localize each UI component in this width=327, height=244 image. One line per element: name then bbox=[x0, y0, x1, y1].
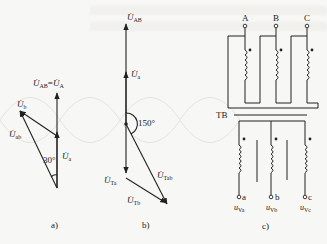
label-UTa: U̇Ta bbox=[104, 175, 117, 186]
angle-label-150: 150° bbox=[138, 118, 156, 128]
coil-A bbox=[245, 50, 247, 80]
terminal-label-c: c bbox=[308, 192, 312, 202]
terminal-label-b: b bbox=[275, 192, 280, 202]
terminal-label-A: A bbox=[242, 13, 249, 23]
coil-a bbox=[239, 145, 241, 173]
label-UAB-eq-UA: U̇AB=U̇A bbox=[33, 78, 64, 89]
background-watermark bbox=[0, 98, 240, 143]
label-Ua-b: U̇a bbox=[131, 69, 141, 80]
coil-b bbox=[271, 145, 273, 173]
label-Ub: U̇b bbox=[17, 99, 27, 110]
terminals bbox=[237, 24, 309, 199]
phasor-and-transformer-figure: U̇AB=U̇A U̇b U̇ab U̇a 30° a) U̇AB U̇a 15… bbox=[0, 0, 327, 244]
phasor-UTab bbox=[126, 124, 167, 204]
terminal-label-a: a bbox=[242, 192, 246, 202]
primary-frame bbox=[228, 36, 318, 108]
caption-b: b) bbox=[142, 220, 150, 230]
label-UAB-b: U̇AB bbox=[127, 12, 142, 23]
origin-dot bbox=[124, 122, 128, 126]
coil-C bbox=[307, 50, 309, 80]
voltage-label-uVc: uVc bbox=[300, 203, 311, 213]
terminal-label-B: B bbox=[273, 13, 279, 23]
caption-c: c) bbox=[262, 221, 269, 231]
angle-label-30: 30° bbox=[43, 155, 56, 165]
coil-c bbox=[305, 145, 307, 173]
caption-a: a) bbox=[51, 220, 58, 230]
label-Ua: U̇a bbox=[62, 151, 72, 162]
terminal-label-C: C bbox=[304, 13, 310, 23]
voltage-label-uVa: uVa bbox=[234, 203, 245, 213]
label-UTab: U̇Tab bbox=[157, 170, 172, 181]
angle-arc-30 bbox=[51, 175, 57, 177]
secondary-bus bbox=[239, 121, 305, 145]
voltage-label-uVb: uVb bbox=[266, 203, 277, 213]
coil-B bbox=[276, 50, 278, 80]
label-UTb: U̇Tb bbox=[127, 195, 140, 206]
transformer-label-TB: TB bbox=[216, 110, 228, 120]
transformer-diagram-c bbox=[228, 28, 318, 195]
label-Uab: U̇ab bbox=[9, 129, 21, 140]
